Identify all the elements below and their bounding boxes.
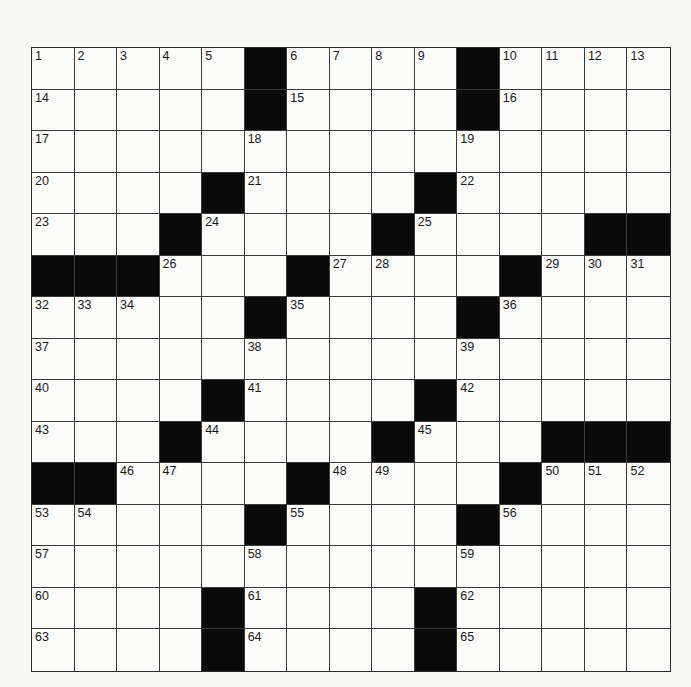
grid-cell[interactable] — [160, 588, 203, 630]
grid-cell[interactable] — [330, 629, 373, 671]
grid-cell[interactable] — [160, 505, 203, 547]
grid-cell[interactable]: 48 — [330, 463, 373, 505]
grid-cell[interactable] — [585, 588, 628, 630]
grid-cell[interactable] — [585, 629, 628, 671]
grid-cell[interactable] — [75, 90, 118, 132]
grid-cell[interactable] — [117, 339, 160, 381]
grid-cell[interactable] — [627, 546, 670, 588]
grid-cell[interactable]: 43 — [32, 422, 75, 464]
grid-cell[interactable]: 50 — [542, 463, 585, 505]
grid-cell[interactable] — [542, 173, 585, 215]
grid-cell[interactable] — [202, 505, 245, 547]
grid-cell[interactable]: 58 — [245, 546, 288, 588]
grid-cell[interactable] — [542, 505, 585, 547]
grid-cell[interactable] — [627, 505, 670, 547]
grid-cell[interactable] — [160, 380, 203, 422]
grid-cell[interactable]: 60 — [32, 588, 75, 630]
grid-cell[interactable] — [542, 380, 585, 422]
grid-cell[interactable] — [542, 214, 585, 256]
grid-cell[interactable] — [245, 214, 288, 256]
grid-cell[interactable] — [75, 588, 118, 630]
grid-cell[interactable] — [202, 339, 245, 381]
grid-cell[interactable] — [75, 339, 118, 381]
grid-cell[interactable] — [372, 90, 415, 132]
grid-cell[interactable] — [585, 173, 628, 215]
grid-cell[interactable] — [287, 380, 330, 422]
grid-cell[interactable]: 61 — [245, 588, 288, 630]
grid-cell[interactable]: 7 — [330, 48, 373, 90]
grid-cell[interactable] — [160, 297, 203, 339]
grid-cell[interactable] — [457, 422, 500, 464]
grid-cell[interactable]: 2 — [75, 48, 118, 90]
grid-cell[interactable]: 17 — [32, 131, 75, 173]
grid-cell[interactable] — [75, 629, 118, 671]
grid-cell[interactable] — [542, 339, 585, 381]
grid-cell[interactable] — [202, 546, 245, 588]
grid-cell[interactable]: 11 — [542, 48, 585, 90]
grid-cell[interactable]: 34 — [117, 297, 160, 339]
grid-cell[interactable]: 3 — [117, 48, 160, 90]
grid-cell[interactable]: 15 — [287, 90, 330, 132]
grid-cell[interactable] — [160, 173, 203, 215]
grid-cell[interactable]: 10 — [500, 48, 543, 90]
grid-cell[interactable] — [330, 297, 373, 339]
grid-cell[interactable]: 65 — [457, 629, 500, 671]
grid-cell[interactable] — [627, 297, 670, 339]
grid-cell[interactable]: 31 — [627, 256, 670, 298]
grid-cell[interactable]: 37 — [32, 339, 75, 381]
grid-cell[interactable] — [500, 131, 543, 173]
grid-cell[interactable] — [330, 214, 373, 256]
grid-cell[interactable] — [542, 546, 585, 588]
grid-cell[interactable] — [75, 422, 118, 464]
grid-cell[interactable] — [330, 588, 373, 630]
grid-cell[interactable] — [415, 297, 458, 339]
grid-cell[interactable] — [627, 90, 670, 132]
grid-cell[interactable]: 16 — [500, 90, 543, 132]
grid-cell[interactable] — [117, 90, 160, 132]
grid-cell[interactable] — [287, 629, 330, 671]
grid-cell[interactable] — [287, 422, 330, 464]
grid-cell[interactable]: 52 — [627, 463, 670, 505]
grid-cell[interactable] — [117, 380, 160, 422]
grid-cell[interactable] — [627, 339, 670, 381]
grid-cell[interactable] — [542, 90, 585, 132]
grid-cell[interactable]: 27 — [330, 256, 373, 298]
grid-cell[interactable] — [500, 588, 543, 630]
grid-cell[interactable] — [245, 463, 288, 505]
grid-cell[interactable] — [627, 173, 670, 215]
grid-cell[interactable]: 54 — [75, 505, 118, 547]
grid-cell[interactable]: 35 — [287, 297, 330, 339]
grid-cell[interactable]: 24 — [202, 214, 245, 256]
grid-cell[interactable] — [202, 131, 245, 173]
grid-cell[interactable]: 32 — [32, 297, 75, 339]
grid-cell[interactable] — [500, 546, 543, 588]
grid-cell[interactable]: 45 — [415, 422, 458, 464]
grid-cell[interactable]: 8 — [372, 48, 415, 90]
grid-cell[interactable]: 33 — [75, 297, 118, 339]
grid-cell[interactable]: 12 — [585, 48, 628, 90]
grid-cell[interactable] — [415, 505, 458, 547]
grid-cell[interactable] — [372, 173, 415, 215]
grid-cell[interactable] — [160, 90, 203, 132]
grid-cell[interactable]: 44 — [202, 422, 245, 464]
grid-cell[interactable]: 28 — [372, 256, 415, 298]
grid-cell[interactable] — [457, 256, 500, 298]
grid-cell[interactable] — [330, 131, 373, 173]
grid-cell[interactable] — [372, 297, 415, 339]
grid-cell[interactable]: 29 — [542, 256, 585, 298]
grid-cell[interactable] — [75, 546, 118, 588]
grid-cell[interactable] — [500, 214, 543, 256]
grid-cell[interactable] — [245, 256, 288, 298]
grid-cell[interactable] — [372, 131, 415, 173]
grid-cell[interactable] — [627, 380, 670, 422]
grid-cell[interactable] — [415, 339, 458, 381]
grid-cell[interactable]: 55 — [287, 505, 330, 547]
grid-cell[interactable] — [500, 173, 543, 215]
grid-cell[interactable] — [330, 546, 373, 588]
grid-cell[interactable]: 18 — [245, 131, 288, 173]
grid-cell[interactable] — [160, 339, 203, 381]
grid-cell[interactable] — [117, 546, 160, 588]
grid-cell[interactable]: 51 — [585, 463, 628, 505]
grid-cell[interactable] — [75, 214, 118, 256]
grid-cell[interactable] — [457, 463, 500, 505]
